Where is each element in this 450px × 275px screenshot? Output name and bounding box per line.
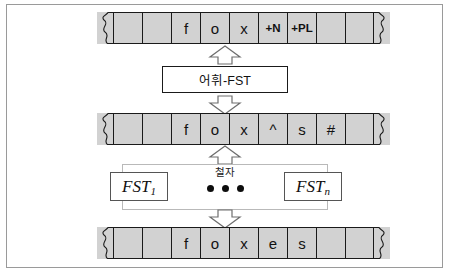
fst-first-box[interactable]: FST1 bbox=[110, 172, 168, 201]
tape-cell bbox=[345, 227, 374, 259]
arrow-down-to-surface-tape bbox=[208, 209, 242, 229]
tape-cell bbox=[142, 12, 171, 44]
intermediate-tape: f o x ^ s # bbox=[97, 113, 390, 145]
tape-cell: x bbox=[229, 227, 258, 259]
tape-cell: s bbox=[287, 113, 316, 145]
tape-cell: e bbox=[258, 227, 287, 259]
surface-tape: f o x e s bbox=[97, 227, 390, 259]
tape-cell: x bbox=[229, 12, 258, 44]
tape-cell: o bbox=[200, 227, 229, 259]
tape-cell bbox=[113, 227, 142, 259]
ellipsis-dot bbox=[237, 185, 244, 192]
tape-cell bbox=[142, 113, 171, 145]
lexical-tape: f o x +N +PL bbox=[97, 12, 390, 44]
tape-cell bbox=[142, 227, 171, 259]
tape-cell: # bbox=[316, 113, 345, 145]
ellipsis-dots bbox=[188, 185, 262, 192]
tape-cell: +N bbox=[258, 12, 287, 44]
fst-first-label: FST1 bbox=[122, 177, 156, 197]
tape-right-torn-edge bbox=[374, 227, 390, 259]
fst-last-label: FSTn bbox=[296, 177, 330, 197]
fst-last-box[interactable]: FSTn bbox=[284, 172, 342, 201]
arrow-up-to-intermediate-tape bbox=[208, 145, 242, 165]
tape-cell: o bbox=[200, 113, 229, 145]
arrow-up-to-lexical-tape bbox=[208, 45, 242, 65]
tape-cell: f bbox=[171, 227, 200, 259]
lexical-fst-label: 어휘-FST bbox=[199, 70, 251, 89]
tape-left-torn-edge bbox=[97, 12, 113, 44]
lexical-fst-box[interactable]: 어휘-FST bbox=[162, 66, 288, 93]
tape-cell bbox=[113, 113, 142, 145]
tape-cell: +PL bbox=[287, 12, 316, 44]
tape-cell: f bbox=[171, 12, 200, 44]
arrow-down-from-lexical-fst bbox=[208, 95, 242, 115]
tape-cell: ^ bbox=[258, 113, 287, 145]
tape-cell bbox=[316, 12, 345, 44]
tape-cell bbox=[113, 12, 142, 44]
tape-left-torn-edge bbox=[97, 113, 113, 145]
tape-right-torn-edge bbox=[374, 113, 390, 145]
tape-left-torn-edge bbox=[97, 227, 113, 259]
tape-right-torn-edge bbox=[374, 12, 390, 44]
figure-root: f o x +N +PL 어휘-FST bbox=[0, 0, 450, 275]
spelling-stage-label: 철자 bbox=[188, 164, 262, 179]
ellipsis-dot bbox=[207, 185, 214, 192]
tape-cell: x bbox=[229, 113, 258, 145]
tape-cell: o bbox=[200, 12, 229, 44]
tape-cell bbox=[316, 227, 345, 259]
tape-cell bbox=[345, 12, 374, 44]
tape-cell: f bbox=[171, 113, 200, 145]
ellipsis-dot bbox=[222, 185, 229, 192]
tape-cell: s bbox=[287, 227, 316, 259]
tape-cell bbox=[345, 113, 374, 145]
